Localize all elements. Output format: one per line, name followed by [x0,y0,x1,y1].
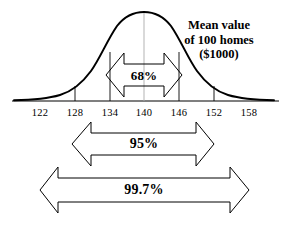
mean-value-annotation: Mean value of 100 homes ($1000) [184,19,253,61]
tick-label-158: 158 [241,108,257,119]
tick-label-134: 134 [102,108,118,119]
interval-68-label: 68% [131,69,158,82]
annotation-line-2: of 100 homes [184,34,253,47]
normal-distribution-figure: Mean value of 100 homes ($1000) 122 128 … [0,0,286,228]
tick-label-152: 152 [206,108,222,119]
tick-label-140: 140 [136,108,152,119]
tick-label-128: 128 [67,108,83,119]
tick-label-122: 122 [32,108,48,119]
tick-label-146: 146 [171,108,187,119]
interval-997-label: 99.7% [124,183,164,197]
annotation-line-3: ($1000) [184,48,253,61]
annotation-line-1: Mean value [184,19,253,32]
interval-95-label: 95% [130,137,159,151]
